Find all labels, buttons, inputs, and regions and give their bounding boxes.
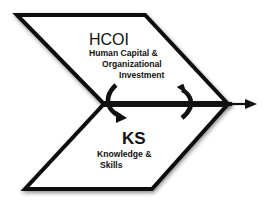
ks-line-2: Skills (100, 160, 123, 170)
hcoi-line-1: Human Capital & (89, 48, 158, 58)
hcoi-line-3: Investment (119, 70, 165, 80)
ks-line-1: Knowledge & (97, 149, 151, 159)
hcoi-ks-diagram: HCOI Human Capital & Organizational Inve… (0, 0, 272, 204)
ks-title: KS (122, 129, 146, 148)
hcoi-line-2: Organizational (102, 59, 162, 69)
hcoi-title: HCOI (89, 31, 129, 48)
arrow-right-icon (245, 99, 257, 109)
